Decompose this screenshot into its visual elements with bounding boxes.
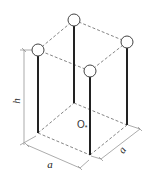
node-top-back	[68, 14, 80, 26]
width-dimension-right	[91, 125, 142, 161]
node-top-right	[121, 36, 133, 48]
label-a-left: a	[47, 158, 53, 170]
top-face-dashed	[38, 20, 127, 71]
nodes	[32, 14, 133, 77]
height-dimension	[20, 48, 36, 145]
prism-diagram: h a a O*	[0, 0, 152, 173]
node-top-front	[84, 65, 96, 77]
label-a-right: a	[115, 144, 128, 156]
node-top-left	[32, 44, 44, 56]
width-dimension-left	[25, 143, 89, 170]
label-h: h	[10, 98, 22, 104]
label-center: O*	[77, 119, 88, 131]
